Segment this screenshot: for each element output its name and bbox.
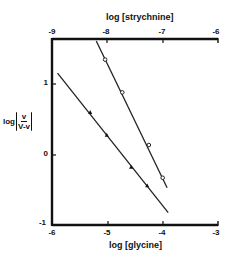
series-layer (58, 41, 169, 213)
y-axis-label: log v V-v (3, 112, 33, 131)
strychnine-data-point (161, 176, 165, 180)
y-tick-label: -1 (32, 218, 46, 227)
bottom-tick-label: -4 (158, 228, 165, 237)
bottom-axis-label: log [glycine] (109, 240, 162, 250)
strychnine-data-point (120, 91, 124, 95)
strychnine-data-point (147, 143, 151, 147)
y-label-fraction: v V-v (16, 112, 32, 131)
y-label-numerator: v (21, 112, 27, 122)
top-tick-label: -7 (158, 27, 165, 36)
y-tick-label: 0 (34, 149, 48, 158)
y-label-prefix: log (3, 117, 15, 126)
y-tick-label: 1 (34, 78, 48, 87)
axes (52, 38, 218, 226)
top-tick-label: -6 (212, 27, 219, 36)
top-tick-label: -8 (102, 27, 109, 36)
bottom-tick-label: -6 (48, 228, 55, 237)
glycine-fit-line (58, 73, 169, 213)
bottom-tick-label: -5 (103, 228, 110, 237)
top-tick-label: -9 (48, 27, 55, 36)
bottom-tick-label: -3 (212, 228, 219, 237)
y-label-denominator: V-v (18, 122, 30, 131)
strychnine-data-point (103, 58, 107, 62)
top-axis-label: log [strychnine] (106, 12, 174, 22)
